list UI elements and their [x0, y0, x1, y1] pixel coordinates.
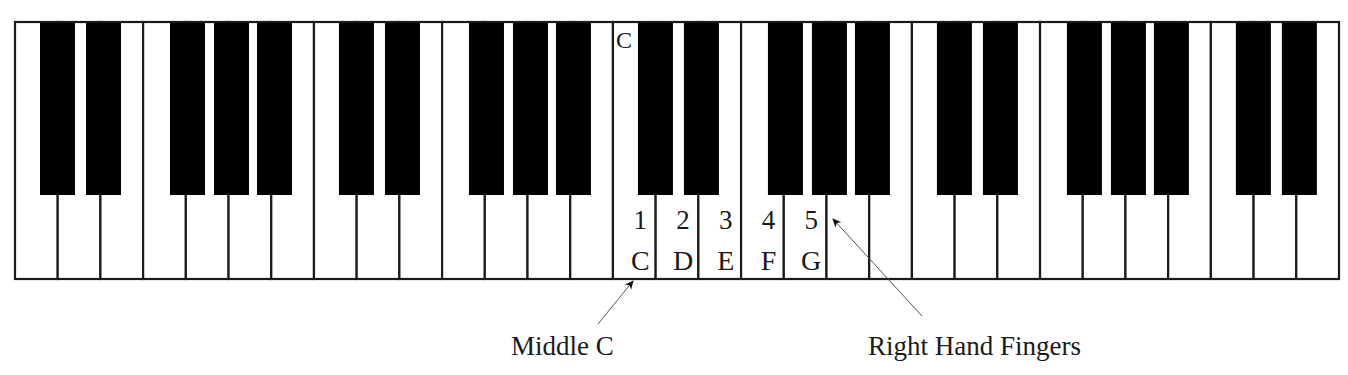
right-hand-fingers-label: Right Hand Fingers — [868, 333, 1081, 360]
note-name-g: G — [801, 245, 821, 276]
black-key-a-sharp[interactable] — [257, 22, 292, 195]
black-key-f-sharp[interactable] — [768, 22, 803, 195]
finger-number-4: 4 — [762, 205, 776, 235]
finger-number-2: 2 — [676, 205, 690, 235]
black-key-f-sharp[interactable] — [170, 22, 205, 195]
black-key-a-sharp[interactable] — [556, 22, 591, 195]
black-key-d-sharp[interactable] — [983, 22, 1018, 195]
black-key-c-sharp[interactable] — [937, 22, 972, 195]
finger-number-3: 3 — [719, 205, 733, 235]
black-key-g-sharp[interactable] — [1111, 22, 1146, 195]
black-key-f-sharp[interactable] — [469, 22, 504, 195]
black-key-a-sharp[interactable] — [1154, 22, 1189, 195]
black-key-d-sharp[interactable] — [86, 22, 121, 195]
note-name-d: D — [673, 245, 693, 276]
black-key-g-sharp[interactable] — [513, 22, 548, 195]
black-key-c-sharp[interactable] — [40, 22, 75, 195]
black-key-d-sharp[interactable] — [1282, 22, 1317, 195]
middle-c-arrow-icon — [598, 281, 633, 324]
black-key-g-sharp[interactable] — [812, 22, 847, 195]
black-key-c-sharp[interactable] — [339, 22, 374, 195]
middle-c-label: Middle C — [511, 333, 614, 360]
finger-number-5: 5 — [804, 205, 818, 235]
black-key-d-sharp[interactable] — [385, 22, 420, 195]
piano-diagram: 1C2D3E4F5G C Middle C Right Hand Fingers — [0, 0, 1348, 375]
black-key-c-sharp[interactable] — [638, 22, 673, 195]
note-name-e: E — [717, 245, 734, 276]
note-name-f: F — [761, 245, 777, 276]
finger-number-1: 1 — [634, 205, 648, 235]
black-key-f-sharp[interactable] — [1067, 22, 1102, 195]
middle-c-top-marker: C — [616, 28, 632, 52]
black-key-c-sharp[interactable] — [1236, 22, 1271, 195]
black-key-g-sharp[interactable] — [214, 22, 249, 195]
black-key-a-sharp[interactable] — [855, 22, 890, 195]
piano-keyboard: 1C2D3E4F5G — [0, 0, 1348, 375]
black-key-d-sharp[interactable] — [684, 22, 719, 195]
note-name-c: C — [631, 245, 650, 276]
